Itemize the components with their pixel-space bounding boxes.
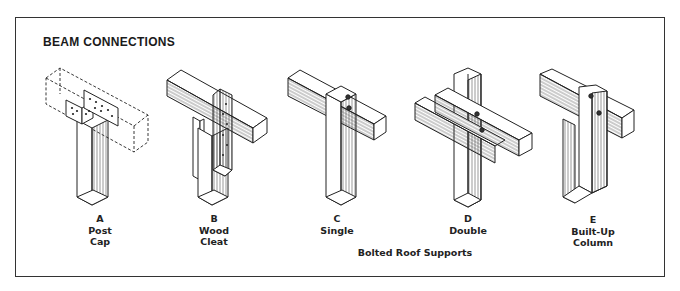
group-label-bolted-roof-supports: Bolted Roof Supports bbox=[345, 247, 485, 258]
label-letter: E bbox=[553, 214, 633, 225]
label-letter: A bbox=[60, 213, 140, 224]
label-line: Built-Up bbox=[553, 226, 633, 237]
label-double: D Double bbox=[428, 213, 508, 236]
label-single: C Single bbox=[297, 213, 377, 236]
label-line: Cap bbox=[60, 236, 140, 247]
label-line: Wood bbox=[174, 225, 254, 236]
label-letter: B bbox=[174, 213, 254, 224]
label-line: Single bbox=[297, 225, 377, 236]
label-line: Post bbox=[60, 225, 140, 236]
label-letter: C bbox=[297, 213, 377, 224]
label-letter: D bbox=[428, 213, 508, 224]
label-post-cap: A Post Cap bbox=[60, 213, 140, 247]
label-line: Double bbox=[428, 225, 508, 236]
post-cap-illustration bbox=[46, 68, 148, 205]
single-bolted-illustration bbox=[288, 70, 386, 205]
label-line: Cleat bbox=[174, 236, 254, 247]
label-wood-cleat: B Wood Cleat bbox=[174, 213, 254, 247]
double-bolted-illustration bbox=[415, 68, 532, 207]
built-up-column-illustration bbox=[540, 69, 634, 203]
label-line: Column bbox=[553, 237, 633, 248]
label-built-up-column: E Built-Up Column bbox=[553, 214, 633, 248]
wood-cleat-illustration bbox=[167, 70, 267, 205]
